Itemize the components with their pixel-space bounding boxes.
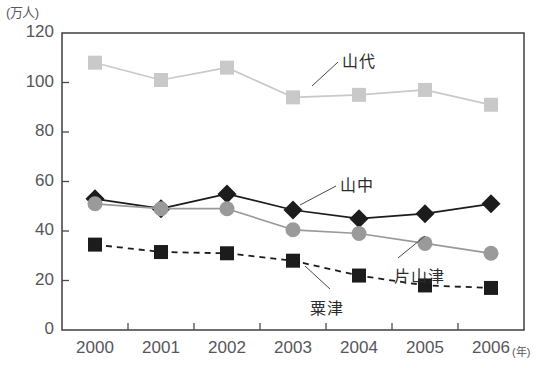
data-point-marker <box>286 222 301 237</box>
data-point-marker <box>154 245 168 259</box>
data-point-marker <box>352 226 367 241</box>
y-tick-label: 60 <box>10 171 54 191</box>
data-point-marker <box>218 184 237 203</box>
data-point-marker <box>88 56 102 70</box>
series-1 <box>86 184 501 228</box>
plot-frame <box>62 33 524 330</box>
x-tick-label: 2002 <box>195 338 259 358</box>
x-tick-label: 2005 <box>393 338 457 358</box>
data-point-marker <box>88 238 102 252</box>
data-point-marker <box>220 246 234 260</box>
y-tick-label: 80 <box>10 121 54 141</box>
data-point-marker <box>154 201 169 216</box>
data-point-marker <box>484 246 499 261</box>
data-series-group <box>86 56 501 295</box>
y-tick-label: 120 <box>10 22 54 42</box>
series-label-0: 山代 <box>342 48 376 72</box>
series-label-3: 粟津 <box>310 295 344 319</box>
chart-canvas <box>0 0 551 368</box>
data-point-marker <box>418 83 432 97</box>
y-tick-label: 0 <box>10 319 54 339</box>
data-point-marker <box>484 98 498 112</box>
x-tick-label: 2000 <box>63 338 127 358</box>
x-tick-label: 2003 <box>261 338 325 358</box>
data-point-marker <box>154 73 168 87</box>
data-point-marker <box>352 88 366 102</box>
data-point-marker <box>350 209 369 228</box>
y-tick-label: 100 <box>10 72 54 92</box>
data-point-marker <box>484 281 498 295</box>
data-point-marker <box>220 201 235 216</box>
data-point-marker <box>416 204 435 223</box>
series-label-1: 山中 <box>340 172 374 196</box>
x-tick-label: 2004 <box>327 338 391 358</box>
line-chart-figure: (万人) (年) 020406080100120 200020012002200… <box>0 0 551 368</box>
data-point-marker <box>286 254 300 268</box>
data-point-marker <box>220 61 234 75</box>
y-tick-label: 20 <box>10 270 54 290</box>
data-point-marker <box>352 269 366 283</box>
data-point-marker <box>418 236 433 251</box>
y-tick-label: 40 <box>10 220 54 240</box>
data-point-marker <box>286 90 300 104</box>
data-point-marker <box>482 194 501 213</box>
series-label-2: 片山津 <box>394 263 445 287</box>
data-point-marker <box>284 200 303 219</box>
data-point-marker <box>88 196 103 211</box>
x-tick-label: 2001 <box>129 338 193 358</box>
series-0 <box>88 56 498 112</box>
x-tick-label: 2006 <box>459 338 523 358</box>
